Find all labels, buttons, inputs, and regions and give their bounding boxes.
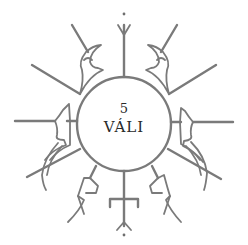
top-arrow-icon (118, 13, 130, 77)
bottom-fork-icon (110, 171, 138, 236)
upper-left-horn-icon (32, 25, 103, 94)
rune-emblem: 5 VÁLI (0, 0, 248, 245)
left-arm-icon (15, 104, 77, 160)
right-arm-icon (171, 108, 233, 162)
upper-right-horn-icon (146, 25, 216, 94)
emblem-number: 5 (74, 101, 174, 116)
emblem-name: VÁLI (74, 118, 174, 136)
